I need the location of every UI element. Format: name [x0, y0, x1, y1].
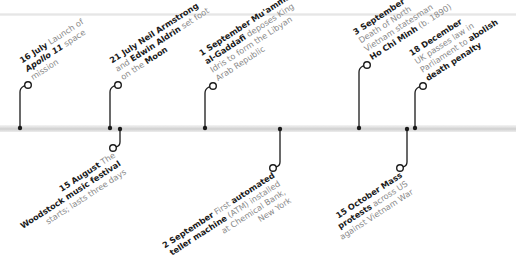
connector-3-september — [359, 66, 364, 128]
connector-2-september — [275, 130, 280, 167]
connector-21-july — [110, 86, 115, 128]
connector-16-july — [20, 86, 25, 128]
connector-15-august — [115, 130, 120, 147]
connector-1-september — [205, 87, 210, 128]
connector-15-october — [402, 130, 407, 167]
connector-18-december — [415, 87, 420, 128]
